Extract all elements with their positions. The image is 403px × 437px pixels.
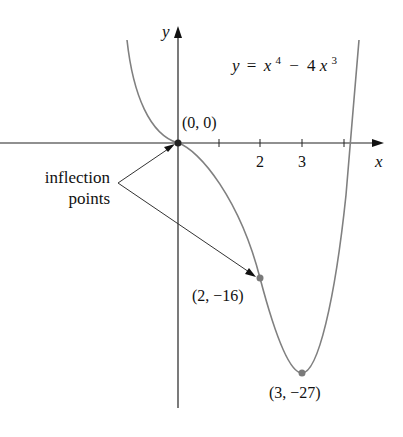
x-tick-label-3: 3 (298, 153, 306, 170)
point-minimum (299, 370, 306, 377)
point-minimum-label: (3, −27) (269, 384, 321, 402)
x-axis-label: x (374, 152, 383, 171)
arrow-head-icon (245, 268, 256, 277)
point-origin-label: (0, 0) (182, 114, 217, 132)
function-curve (127, 40, 359, 373)
equation-label: y = x 4 − 4 x 3 (230, 49, 338, 75)
point-origin (175, 140, 182, 147)
x-tick-label-2: 2 (256, 153, 264, 170)
annotation-points: points (68, 189, 110, 208)
graph-figure: 2 3 x y y = x 4 − 4 x 3 (0, 0) (2, −16) … (0, 0, 403, 437)
point-inflection-2 (257, 275, 264, 282)
y-axis: y (160, 22, 182, 408)
x-axis-arrow-icon (372, 139, 384, 147)
y-axis-arrow-icon (174, 26, 182, 38)
x-axis: 2 3 x (0, 139, 384, 171)
y-axis-label: y (160, 22, 170, 41)
point-inflection-2-label: (2, −16) (192, 287, 244, 305)
annotation-inflection: inflection (45, 168, 111, 187)
